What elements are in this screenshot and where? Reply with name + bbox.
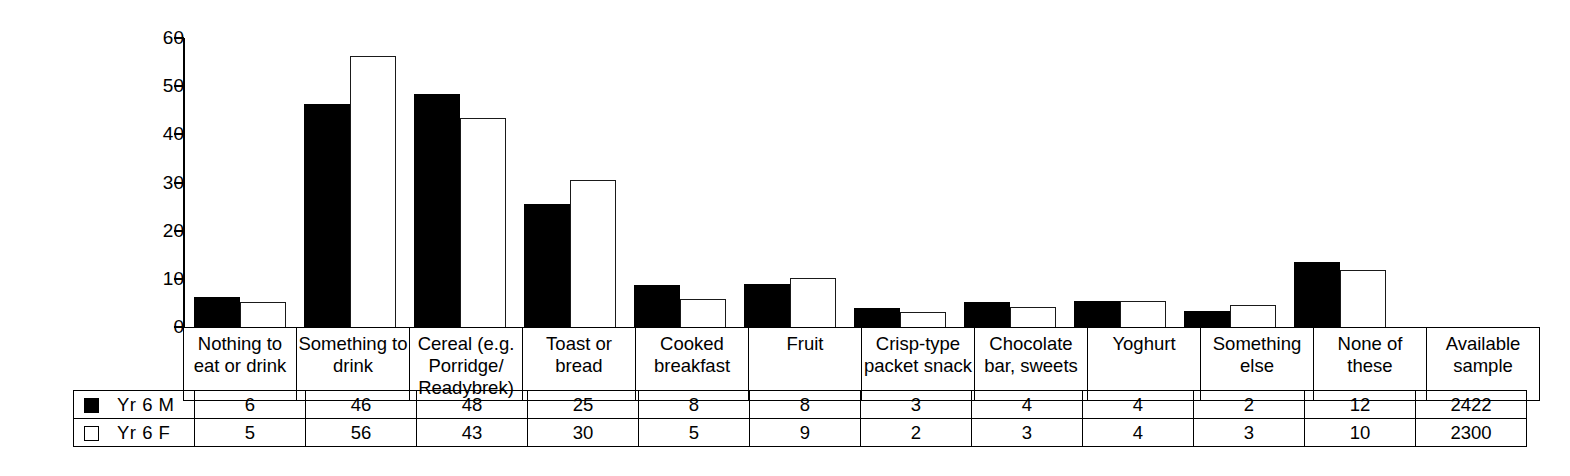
- bar-female: [1120, 301, 1166, 327]
- data-value-cell: 2: [861, 419, 972, 447]
- data-value-cell: 43: [417, 419, 528, 447]
- bar-male: [414, 94, 460, 327]
- bar-group: [1065, 38, 1175, 327]
- legend-cell: Yr 6 M: [74, 391, 195, 419]
- bar-female: [1230, 305, 1276, 327]
- bar-group: [625, 38, 735, 327]
- data-value-cell: 8: [750, 391, 861, 419]
- data-value-cell: 56: [306, 419, 417, 447]
- legend-label: Yr 6 F: [117, 422, 170, 443]
- data-value-cell: 6: [195, 391, 306, 419]
- bar-group: [515, 38, 625, 327]
- legend-cell: Yr 6 F: [74, 419, 195, 447]
- bar-group: [1285, 38, 1395, 327]
- bar-female: [570, 180, 616, 327]
- data-value-cell: 2422: [1416, 391, 1527, 419]
- data-value-body: Yr 6 M6464825883442122422Yr 6 F556433059…: [74, 391, 1527, 447]
- bar-female: [460, 118, 506, 327]
- bar-group: [295, 38, 405, 327]
- bar-male: [1294, 262, 1340, 328]
- bar-male: [304, 104, 350, 327]
- data-value-cell: 5: [195, 419, 306, 447]
- bar-male: [524, 204, 570, 327]
- y-tick-mark: [174, 326, 184, 328]
- data-value-cell: 30: [528, 419, 639, 447]
- bar-group: [735, 38, 845, 327]
- chart-figure: 6050403020100 Nothing toeat or drinkSome…: [0, 0, 1570, 476]
- data-value-cell: 2300: [1416, 419, 1527, 447]
- bar-male: [744, 284, 790, 327]
- bar-female: [1340, 270, 1386, 327]
- plot-area: [185, 38, 1495, 327]
- bar-group: [955, 38, 1065, 327]
- bar-female: [680, 299, 726, 327]
- data-value-cell: 8: [639, 391, 750, 419]
- y-tick-mark: [174, 85, 184, 87]
- data-value-cell: 12: [1305, 391, 1416, 419]
- bar-male: [194, 297, 240, 327]
- bar-female: [1010, 307, 1056, 327]
- data-value-cell: 3: [861, 391, 972, 419]
- y-tick-mark: [174, 133, 184, 135]
- legend-label: Yr 6 M: [117, 394, 174, 415]
- hollow-square-icon: [84, 426, 99, 441]
- bar-male: [1184, 311, 1230, 327]
- bar-male: [964, 302, 1010, 327]
- data-value-cell: 48: [417, 391, 528, 419]
- data-value-cell: 3: [1194, 419, 1305, 447]
- data-value-cell: 4: [1083, 419, 1194, 447]
- bar-female: [790, 278, 836, 327]
- table-row: Yr 6 F5564330592343102300: [74, 419, 1527, 447]
- bar-group: [845, 38, 955, 327]
- table-row: Yr 6 M6464825883442122422: [74, 391, 1527, 419]
- bar-male: [854, 308, 900, 327]
- bar-male: [634, 285, 680, 327]
- bar-group: [1175, 38, 1285, 327]
- data-value-cell: 9: [750, 419, 861, 447]
- y-tick-mark: [174, 230, 184, 232]
- data-value-cell: 25: [528, 391, 639, 419]
- data-value-cell: 10: [1305, 419, 1416, 447]
- data-value-table: Yr 6 M6464825883442122422Yr 6 F556433059…: [73, 390, 1527, 447]
- data-value-cell: 3: [972, 419, 1083, 447]
- data-value-cell: 46: [306, 391, 417, 419]
- y-tick-mark: [174, 182, 184, 184]
- data-value-cell: 2: [1194, 391, 1305, 419]
- data-value-cell: 5: [639, 419, 750, 447]
- bar-group: [405, 38, 515, 327]
- bar-female: [900, 312, 946, 327]
- bar-group: [185, 38, 295, 327]
- bar-female: [240, 302, 286, 327]
- filled-square-icon: [84, 398, 99, 413]
- data-value-cell: 4: [972, 391, 1083, 419]
- y-tick-mark: [174, 37, 184, 39]
- y-tick-mark: [174, 278, 184, 280]
- bar-male: [1074, 301, 1120, 327]
- bar-female: [350, 56, 396, 327]
- data-value-cell: 4: [1083, 391, 1194, 419]
